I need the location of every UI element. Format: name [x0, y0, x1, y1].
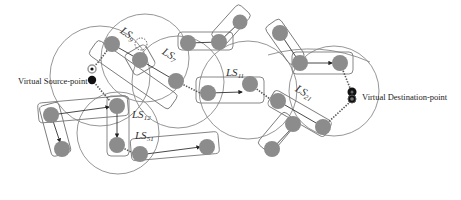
ls-label-ls11: LS11 — [225, 66, 244, 80]
node — [109, 137, 125, 153]
ls-label-ls9: LS9 — [116, 24, 138, 45]
node — [332, 55, 348, 71]
virtual-source-point — [88, 65, 96, 84]
ls-label-ls51: LS51 — [134, 129, 154, 143]
node — [292, 55, 308, 71]
node — [132, 52, 148, 68]
source-filled-dot-icon — [88, 76, 96, 84]
edge — [146, 147, 200, 154]
node — [315, 119, 331, 135]
node — [285, 116, 301, 132]
node — [233, 15, 248, 30]
network-diagram: Virtual Source-point Virtual Destination… — [0, 0, 461, 200]
node — [168, 73, 184, 89]
node — [109, 98, 125, 114]
destination-inner — [350, 97, 354, 101]
node — [180, 35, 196, 51]
node — [43, 107, 59, 123]
node — [242, 76, 258, 92]
destination-center — [351, 91, 354, 94]
node — [200, 85, 216, 101]
node — [104, 36, 120, 52]
node — [270, 93, 286, 109]
node — [132, 146, 148, 162]
destination-label: Virtual Destination-point — [362, 92, 448, 102]
source-center-dot — [90, 67, 93, 70]
node — [272, 25, 288, 41]
node — [54, 141, 70, 157]
ls-label-ls7: LS7 — [159, 45, 181, 66]
ls-label-ls12: LS12 — [131, 108, 151, 122]
node — [199, 139, 215, 155]
node — [211, 34, 227, 50]
node — [264, 141, 280, 157]
source-label: Virtual Source-point — [18, 76, 88, 86]
